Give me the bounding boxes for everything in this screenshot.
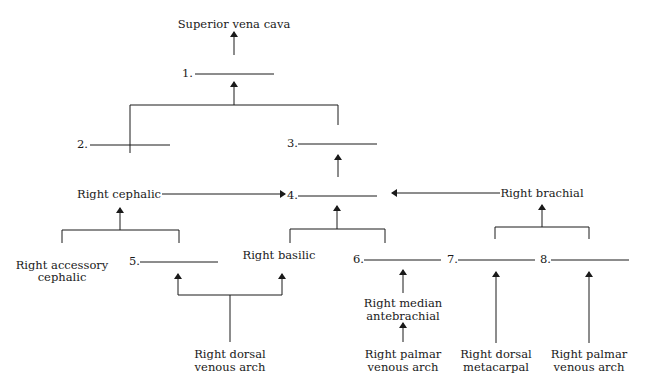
label-right-median-antebrachial-2: antebrachial	[366, 310, 439, 323]
label-right-palmar-venous-arch-b-2: venous arch	[554, 361, 625, 374]
blank-7-number: 7.	[447, 253, 458, 266]
blank-1-number: 1.	[182, 67, 193, 80]
blank-6-number: 6.	[353, 253, 364, 266]
blank-3-number: 3.	[287, 137, 298, 150]
label-right-accessory-cephalic-2: cephalic	[38, 271, 87, 284]
label-right-dorsal-metacarpal-2: metacarpal	[463, 361, 529, 374]
vein-flow-diagram: 1. 2. 3. 4. 5. 6. 7. 8. Superior vena ca…	[0, 0, 654, 389]
label-right-basilic: Right basilic	[243, 249, 316, 262]
blank-2-number: 2.	[77, 138, 88, 151]
label-superior-vena-cava: Superior vena cava	[178, 18, 291, 31]
blank-4-number: 4.	[287, 189, 298, 202]
blank-5-number: 5.	[129, 255, 140, 268]
label-right-dorsal-venous-arch-2: venous arch	[195, 361, 266, 374]
label-right-cephalic: Right cephalic	[77, 188, 161, 201]
label-right-brachial: Right brachial	[500, 187, 583, 200]
blank-8-number: 8.	[540, 253, 551, 266]
label-right-palmar-venous-arch-2: venous arch	[368, 361, 439, 374]
